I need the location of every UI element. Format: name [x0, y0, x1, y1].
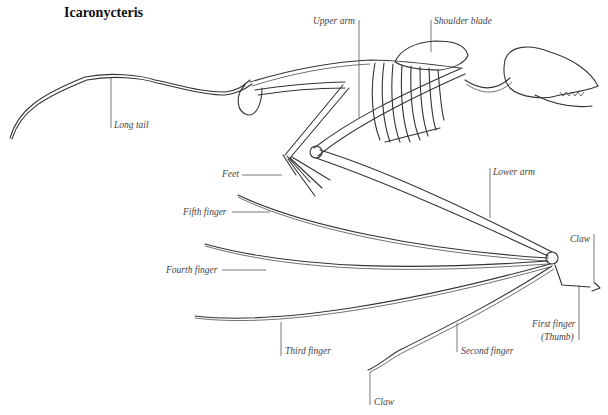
- label-claw-bottom: Claw: [374, 397, 394, 408]
- label-second-finger: Second finger: [461, 346, 514, 357]
- feet: [283, 155, 330, 196]
- label-upper-arm: Upper arm: [313, 16, 355, 27]
- label-first-finger: First finger: [532, 319, 576, 330]
- label-thumb: (Thumb): [541, 332, 574, 343]
- label-third-finger: Third finger: [285, 346, 331, 357]
- label-long-tail: Long tail: [114, 120, 149, 131]
- label-claw-top: Claw: [570, 234, 590, 245]
- label-shoulder-blade: Shoulder blade: [434, 16, 492, 27]
- label-feet: Feet: [222, 169, 239, 180]
- label-fifth-finger: Fifth finger: [183, 207, 227, 218]
- label-lower-arm: Lower arm: [493, 167, 535, 178]
- skull: [504, 47, 598, 107]
- rib-cage: [372, 63, 444, 142]
- label-fourth-finger: Fourth finger: [166, 265, 217, 276]
